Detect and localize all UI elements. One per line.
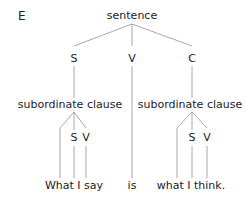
node-complement: C [188, 53, 196, 65]
panel-label: E [18, 10, 26, 22]
node-subject: S [71, 53, 78, 65]
left-clause-text: What I say [45, 180, 103, 192]
left-subordinate-clause: subordinate clause [18, 99, 122, 111]
verb-text: is [128, 180, 137, 192]
root-node-sentence: sentence [107, 10, 157, 22]
left-clause-subject: S [71, 132, 78, 144]
right-clause-text: what I think. [157, 180, 225, 192]
right-subordinate-clause: subordinate clause [138, 99, 242, 111]
node-verb: V [128, 53, 136, 65]
left-clause-verb: V [82, 132, 90, 144]
right-clause-subject: S [189, 132, 196, 144]
right-clause-verb: V [203, 132, 211, 144]
